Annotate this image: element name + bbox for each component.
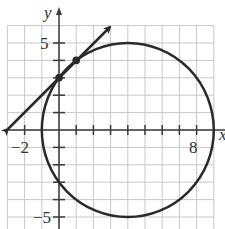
coordinate-graph: y x −2 8 5 −5 <box>0 0 225 229</box>
intersection-point-0-3 <box>55 74 63 82</box>
x-tick-label-8: 8 <box>189 138 198 157</box>
y-tick-label-5: 5 <box>40 34 49 53</box>
x-tick-label-neg2: −2 <box>11 138 29 157</box>
y-axis-label: y <box>42 3 52 22</box>
x-axis-label: x <box>218 125 225 144</box>
y-axis-arrow-icon <box>56 7 62 15</box>
y-tick-label-neg5: −5 <box>33 208 51 227</box>
intersection-point-1-4 <box>72 57 80 65</box>
